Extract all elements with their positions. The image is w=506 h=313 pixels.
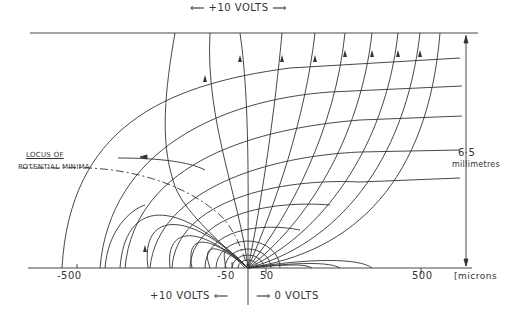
locus-label-line1: LOCUS OF (26, 151, 64, 159)
tick-label-minus-50: -50 (217, 270, 235, 281)
field-diagram (0, 0, 506, 313)
tick-label-minus-500: -500 (57, 270, 82, 281)
arrow-left-icon: ⟸ (210, 290, 229, 301)
arrow-right-icon: ⟹ (256, 290, 275, 301)
locus-label-line2: POTENTIAL MINIMA (18, 163, 90, 171)
tick-label-50: 50 (260, 270, 274, 281)
axis-unit-label: [microns (454, 271, 497, 281)
dimension-unit: millimetres (452, 160, 500, 169)
top-voltage-label: ⟸ +10 VOLTS ⟹ (190, 2, 287, 13)
tick-label-500: 500 (412, 270, 433, 281)
arrow-right-icon: ⟹ (268, 2, 287, 13)
bottom-right-voltage-label: ⟹ 0 VOLTS (256, 290, 319, 301)
bottom-left-voltage-label: +10 VOLTS ⟸ (150, 290, 228, 301)
dimension-value: 6·5 (458, 147, 475, 158)
locus-curve (20, 168, 248, 268)
arrow-left-icon: ⟸ (190, 2, 209, 13)
